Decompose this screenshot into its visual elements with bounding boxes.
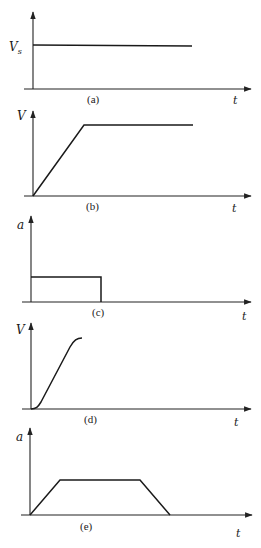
x-label-e: t bbox=[236, 527, 241, 540]
y-label-a: Vs bbox=[9, 40, 22, 56]
trapezoid-acceleration-curve bbox=[30, 480, 170, 515]
rectangular-pulse-curve bbox=[31, 277, 101, 302]
panel-a: Vs (a) t bbox=[9, 12, 251, 107]
panel-d: V (d) t bbox=[16, 323, 251, 429]
panel-b: V (b) t bbox=[17, 109, 251, 215]
motion-profile-figure: Vs (a) t V (b) t a (c) t V (d) t a (e) t bbox=[0, 0, 261, 548]
s-curve-velocity bbox=[31, 338, 82, 409]
caption-e: (e) bbox=[80, 520, 93, 533]
caption-b: (b) bbox=[86, 200, 99, 213]
x-label-c: t bbox=[242, 310, 247, 323]
y-label-e: a bbox=[16, 430, 23, 444]
y-label-d: V bbox=[16, 323, 26, 337]
y-label-c: a bbox=[17, 218, 24, 232]
panel-c: a (c) t bbox=[17, 216, 251, 323]
y-label-b: V bbox=[17, 109, 27, 123]
x-label-d: t bbox=[234, 416, 239, 429]
panel-e: a (e) t bbox=[16, 428, 252, 540]
x-label-a: t bbox=[233, 94, 238, 107]
caption-c: (c) bbox=[92, 306, 105, 319]
constant-velocity-line bbox=[33, 45, 192, 46]
caption-d: (d) bbox=[84, 413, 97, 426]
ramp-plateau-curve bbox=[33, 125, 193, 196]
x-label-b: t bbox=[232, 202, 237, 215]
caption-a: (a) bbox=[87, 93, 100, 106]
